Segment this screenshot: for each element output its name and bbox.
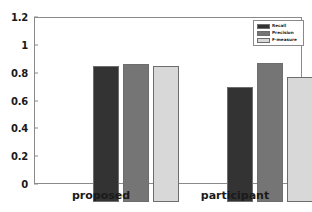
y-tick-mark — [34, 100, 38, 101]
legend-item-f-measure: F-measure — [257, 37, 300, 43]
x-tick-label-proposed: proposed — [72, 189, 130, 202]
legend-item-precision: Precision — [257, 30, 300, 36]
legend-label: F-measure — [272, 38, 297, 42]
x-tick-label-participant: participant — [201, 189, 269, 202]
bar-precision-participant — [257, 63, 283, 202]
y-tick-mark — [34, 156, 38, 157]
y-tick-mark — [34, 184, 38, 185]
bar-recall-proposed — [93, 66, 119, 202]
y-tick-mark — [34, 72, 38, 73]
legend-swatch-precision — [257, 31, 270, 36]
y-tick-label: 1.2 — [11, 12, 28, 23]
bar-recall-participant — [227, 87, 253, 203]
y-tick-label: 0.4 — [11, 123, 28, 134]
bar-chart-figure: 00.20.40.60.811.2 RecallPrecisionF-measu… — [0, 0, 312, 212]
y-tick-label: 1 — [21, 39, 28, 50]
y-tick-label: 0 — [21, 179, 28, 190]
legend-swatch-f-measure — [257, 38, 270, 43]
y-tick-label: 0.6 — [11, 95, 28, 106]
y-tick-mark — [34, 17, 38, 18]
legend-item-recall: Recall — [257, 23, 300, 29]
bar-f-measure-participant — [287, 77, 312, 202]
y-axis: 00.20.40.60.811.2 — [0, 17, 34, 184]
legend-label: Precision — [272, 31, 294, 35]
legend-swatch-recall — [257, 24, 270, 29]
y-tick-label: 0.8 — [11, 67, 28, 78]
chart-legend: RecallPrecisionF-measure — [253, 20, 304, 46]
y-tick-label: 0.2 — [11, 151, 28, 162]
legend-label: Recall — [272, 24, 286, 28]
y-tick-mark — [34, 44, 38, 45]
bar-f-measure-proposed — [153, 66, 179, 202]
bar-precision-proposed — [123, 64, 149, 202]
y-tick-mark — [34, 128, 38, 129]
bars-layer — [69, 35, 312, 202]
